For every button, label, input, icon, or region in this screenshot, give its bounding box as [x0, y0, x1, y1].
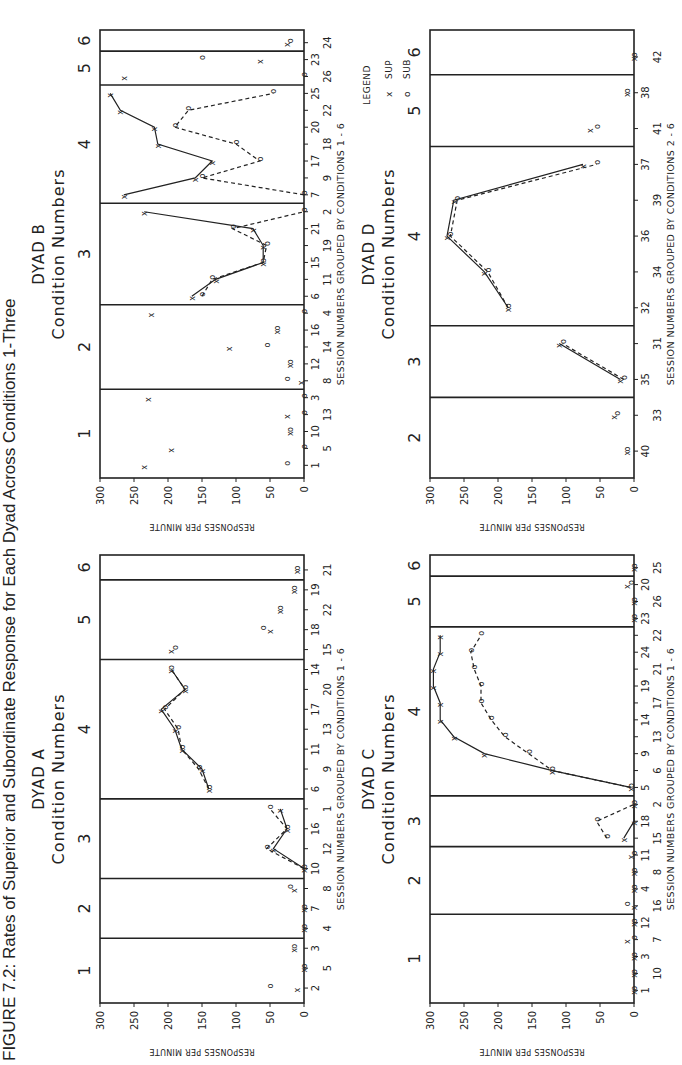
legend-label-sup: SUP	[384, 60, 394, 79]
x-tick-label: 23	[310, 53, 321, 66]
condition-number: 4	[405, 706, 424, 716]
sub-marker: o	[184, 106, 193, 111]
x-tick-label: 3	[310, 945, 321, 951]
sub-marker: o	[630, 952, 639, 957]
sub-marker: o	[171, 123, 180, 128]
y-tick-label: 50	[265, 486, 276, 499]
sub-marker: o	[300, 207, 309, 212]
chart-title: DYAD B	[30, 223, 48, 285]
sub-marker: o	[198, 55, 207, 60]
condition-number: 2	[405, 433, 424, 443]
condition-number: 5	[75, 63, 94, 73]
sup-marker: x	[208, 160, 217, 165]
sup-marker: x	[106, 93, 115, 98]
y-tick-label: 150	[527, 486, 538, 505]
x-tick-label: 9	[322, 766, 333, 772]
x-axis-label: SESSION NUMBERS GROUPED BY CONDITIONS 1 …	[665, 648, 676, 911]
sub-marker: o	[286, 884, 295, 889]
sub-marker: o	[453, 196, 462, 201]
chart-dyad-a: DYAD ACondition Numbers12345605010015020…	[22, 545, 347, 1065]
sub-marker: o	[286, 359, 295, 364]
sub-marker: o	[263, 844, 272, 849]
x-tick-label: 36	[640, 230, 651, 243]
x-tick-label: 33	[652, 409, 663, 422]
sub-marker: o	[259, 258, 268, 263]
chart-dyad-b: DYAD BCondition Numbers12345605010015020…	[22, 20, 347, 540]
sub-marker: o	[467, 648, 476, 653]
sub-marker: o	[300, 964, 309, 969]
sub-marker: o	[161, 705, 170, 710]
y-tick-label: 300	[95, 486, 106, 505]
sub-marker: o	[286, 38, 295, 43]
x-tick-label: 24	[322, 36, 333, 49]
x-tick-label: 20	[640, 578, 651, 591]
sup-marker: x	[120, 194, 129, 199]
y-axis-label: RESPONSES PER MINUTE	[479, 1047, 585, 1056]
y-tick-label: 100	[561, 1011, 572, 1030]
sub-marker: o	[293, 565, 302, 570]
sub-marker: o	[283, 461, 292, 466]
sub-marker: o	[181, 685, 190, 690]
x-tick-label: 15	[322, 643, 333, 656]
x-tick-label: 10	[652, 967, 663, 980]
condition-number: 2	[75, 342, 94, 352]
x-tick-label: 7	[652, 936, 663, 942]
condition-number: 4	[405, 231, 424, 241]
y-tick-label: 300	[425, 486, 436, 505]
chart-dyad-c: DYAD CCondition Numbers12345605010015020…	[352, 545, 677, 1065]
sub-marker: o	[286, 427, 295, 432]
figure-page: FIGURE 7.2: Rates of Superior and Subord…	[0, 0, 682, 1065]
sub-marker: o	[630, 851, 639, 856]
sup-marker: x	[154, 143, 163, 148]
x-tick-label: 11	[640, 849, 651, 862]
figure-caption: FIGURE 7.2: Rates of Superior and Subord…	[0, 1, 20, 1061]
sub-marker: o	[487, 715, 496, 720]
y-tick-label: 50	[595, 486, 606, 499]
sub-marker: o	[273, 326, 282, 331]
sub-marker: o	[178, 745, 187, 750]
x-tick-label: 8	[322, 378, 333, 384]
sub-marker: o	[300, 393, 309, 398]
sub-marker: o	[283, 376, 292, 381]
y-tick-label: 250	[459, 486, 470, 505]
y-tick-label: 200	[493, 486, 504, 505]
condition-number: 3	[405, 816, 424, 826]
x-tick-label: 6	[310, 293, 321, 299]
y-tick-label: 200	[163, 1011, 174, 1030]
chart-subtitle: Condition Numbers	[379, 168, 398, 339]
x-tick-label: 11	[310, 743, 321, 756]
x-tick-label: 14	[310, 663, 321, 676]
x-tick-label: 1	[640, 987, 651, 993]
sub-line	[563, 344, 624, 380]
y-tick-label: 150	[197, 486, 208, 505]
x-tick-label: 24	[640, 646, 651, 659]
sub-marker: o	[198, 173, 207, 178]
chart-title: DYAD C	[360, 748, 378, 810]
condition-number: 3	[75, 834, 94, 844]
sub-marker: o	[627, 783, 636, 788]
x-tick-label: 41	[652, 122, 663, 135]
x-tick-label: 9	[640, 750, 651, 756]
x-tick-label: 3	[640, 953, 651, 959]
condition-number: 1	[75, 966, 94, 976]
x-tick-label: 15	[652, 832, 663, 845]
sub-marker: o	[603, 834, 612, 839]
sub-marker: o	[504, 303, 513, 308]
x-tick-label: 12	[640, 916, 651, 929]
x-tick-label: 15	[310, 256, 321, 269]
sub-marker: o	[630, 597, 639, 602]
sub-marker: o	[195, 764, 204, 769]
sup-marker: x	[167, 448, 176, 453]
y-tick-label: 100	[231, 1011, 242, 1030]
y-tick-label: 200	[163, 486, 174, 505]
x-tick-label: 19	[640, 680, 651, 693]
condition-number: 6	[75, 35, 94, 45]
sub-marker: o	[263, 342, 272, 347]
plot-frame	[430, 30, 634, 478]
x-tick-label: 38	[640, 86, 651, 99]
sub-marker: o	[623, 447, 632, 452]
sub-marker: o	[232, 140, 241, 145]
sup-marker: x	[150, 127, 159, 132]
sub-marker: o	[501, 732, 510, 737]
sup-marker: x	[276, 808, 285, 813]
